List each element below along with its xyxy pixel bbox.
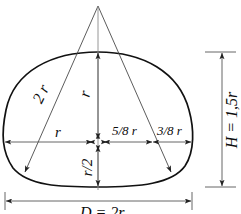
label-half-r: r/2 <box>80 159 95 177</box>
oval-geometry-figure: 2 r r r 5/8 r 3/8 r r/2 H = 1,5r D = 2r <box>0 0 241 214</box>
label-diameter-D: D = 2r <box>80 205 125 214</box>
figure-drawing <box>0 0 241 214</box>
label-height-H: H = 1,5r <box>224 92 240 149</box>
label-segment-3-8r: 3/8 r <box>157 124 182 137</box>
label-horizontal-r: r <box>55 125 61 140</box>
label-segment-5-8r: 5/8 r <box>112 124 137 137</box>
